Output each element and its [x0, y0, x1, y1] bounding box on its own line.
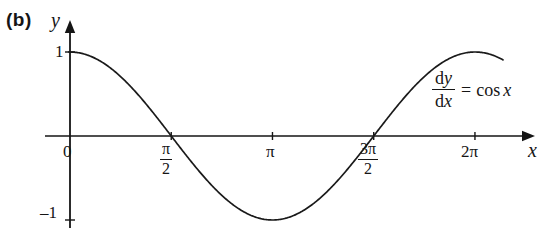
derivative-fraction: dy dx — [432, 68, 455, 111]
y-tick-label-minus-1: –1 — [40, 204, 57, 221]
d-operator: d — [435, 91, 444, 111]
fraction-denominator: 2 — [358, 160, 378, 178]
equals-sign: = — [461, 81, 471, 99]
numerator-variable: y — [444, 68, 452, 88]
equation-annotation: dy dx = cosx — [432, 68, 511, 111]
fraction-denominator: 2 — [160, 160, 172, 178]
x-tick-label-2pi: 2π — [461, 143, 478, 160]
y-axis-label: y — [51, 10, 60, 30]
cosine-plot — [0, 0, 556, 240]
d-operator: d — [435, 68, 444, 88]
cosine-function-name: cos — [476, 81, 500, 99]
fraction-numerator: 3π — [358, 141, 378, 160]
axes-group — [45, 20, 535, 228]
fraction-3pi-over-2: 3π 2 — [358, 141, 378, 178]
denominator-variable: x — [444, 91, 452, 111]
part-label: (b) — [6, 10, 32, 29]
y-tick-label-1: 1 — [55, 43, 64, 60]
x-tick-label-0: 0 — [63, 143, 72, 160]
derivative-numerator: dy — [432, 68, 455, 90]
fraction-numerator: π — [160, 141, 172, 160]
derivative-denominator: dx — [432, 90, 455, 111]
fraction-pi-over-2: π 2 — [160, 141, 172, 178]
x-axis-label: x — [528, 140, 537, 160]
x-tick-label-pi: π — [266, 143, 275, 160]
x-tick-label-3pi-over-2: 3π 2 — [358, 141, 378, 178]
figure-panel: (b) y x 1 –1 0 π 2 π 3π 2 2π dy dx = cos… — [0, 0, 556, 240]
y-axis-arrowhead — [65, 20, 75, 33]
cosine-argument: x — [503, 81, 511, 99]
x-tick-label-pi-over-2: π 2 — [160, 141, 172, 178]
